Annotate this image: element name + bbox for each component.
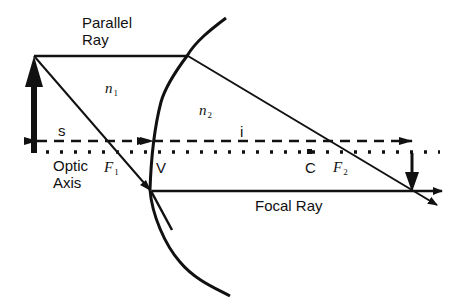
refracted-parallel-ray bbox=[188, 56, 437, 205]
optic-axis-label-line1: Optic bbox=[53, 157, 88, 174]
parallel-ray-label-line2: Ray bbox=[82, 31, 132, 48]
center-label: C bbox=[305, 159, 316, 176]
n1-symbol: n bbox=[105, 80, 113, 96]
n2-subscript: 2 bbox=[208, 110, 213, 120]
s-label: s bbox=[58, 122, 66, 139]
i-label: i bbox=[240, 123, 243, 140]
n2-label: n2 bbox=[199, 102, 212, 124]
f1-subscript: 1 bbox=[114, 167, 119, 177]
refraction-diagram bbox=[0, 0, 469, 308]
n2-symbol: n bbox=[199, 102, 207, 118]
refracting-surface-curve bbox=[150, 18, 230, 296]
parallel-ray-label: Parallel Ray bbox=[82, 14, 132, 48]
f2-symbol: F bbox=[333, 159, 342, 175]
focal-ray-label: Focal Ray bbox=[255, 197, 323, 214]
ray-through-f1 bbox=[34, 56, 151, 191]
vertex-label: V bbox=[156, 159, 166, 176]
n1-subscript: 1 bbox=[114, 88, 119, 98]
f2-subscript: 2 bbox=[343, 167, 348, 177]
center-point-marker bbox=[307, 149, 312, 154]
optic-axis-label: Optic Axis bbox=[53, 157, 88, 191]
n1-label: n1 bbox=[105, 80, 118, 102]
f1-symbol: F bbox=[104, 159, 113, 175]
image-arrow-head bbox=[405, 172, 419, 192]
f2-label: F2 bbox=[333, 159, 348, 181]
object-arrow-head bbox=[25, 56, 43, 87]
parallel-ray-label-line1: Parallel bbox=[82, 14, 132, 31]
f1-label: F1 bbox=[104, 159, 119, 181]
optic-axis-label-line2: Axis bbox=[53, 174, 88, 191]
